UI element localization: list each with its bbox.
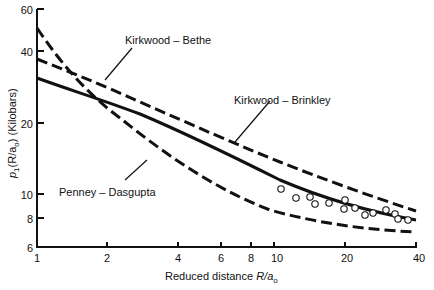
x-tick-labels: 1 2 4 6 8 10 20 40: [34, 252, 425, 264]
y-tick-10: 10: [21, 189, 33, 201]
x-tick-8: 8: [248, 252, 254, 264]
x-tick-10: 10: [271, 252, 283, 264]
label-penney-dasgupta: Penney – Dasgupta: [59, 186, 157, 198]
axes: [36, 9, 417, 248]
x-tick-20: 20: [341, 252, 353, 264]
x-tick-1: 1: [34, 252, 40, 264]
data-point: [395, 216, 401, 222]
y-tick-labels: 6 8 10 20 40 60: [21, 4, 33, 254]
curve-kirkwood-brinkley: [37, 78, 416, 220]
data-point: [278, 186, 284, 192]
label-kirkwood-brinkley: Kirkwood – Brinkley: [234, 94, 331, 106]
leader-penney-dasgupta: [125, 160, 147, 180]
data-point: [341, 206, 347, 212]
y-axis-title: p1(R/ao) (Kilobars): [6, 88, 21, 179]
x-tick-2: 2: [104, 252, 110, 264]
x-tick-40: 40: [413, 252, 425, 264]
curve-penney-dasgupta: [37, 28, 416, 232]
x-axis-title: Reduced distance R/ao: [165, 270, 278, 285]
data-point: [312, 201, 318, 207]
y-tick-6: 6: [27, 242, 33, 254]
y-tick-8: 8: [27, 213, 33, 225]
leader-kirkwood-bethe: [105, 48, 132, 80]
y-tick-60: 60: [21, 4, 33, 16]
data-point: [326, 200, 332, 206]
data-point: [307, 194, 313, 200]
data-point: [405, 217, 411, 223]
y-tick-40: 40: [21, 46, 33, 58]
chart: 6 8 10 20 40 60 1 2 4 6 8 10 20 40 Reduc…: [0, 0, 434, 290]
x-tick-6: 6: [218, 252, 224, 264]
y-tick-20: 20: [21, 118, 33, 130]
data-point: [370, 210, 376, 216]
data-point: [293, 195, 299, 201]
label-kirkwood-bethe: Kirkwood – Bethe: [125, 34, 211, 46]
x-tick-4: 4: [175, 252, 181, 264]
leader-kirkwood-brinkley: [235, 101, 270, 142]
data-point: [383, 207, 389, 213]
data-point: [342, 197, 348, 203]
data-point: [352, 205, 358, 211]
data-point: [362, 212, 368, 218]
